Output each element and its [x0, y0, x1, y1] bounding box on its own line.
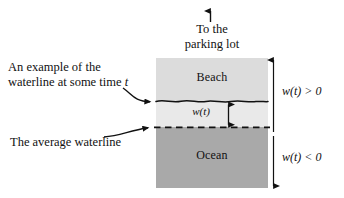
waterline-example-caption-line2: waterline at some time t [8, 75, 144, 90]
wt-negative-label: w(t) < 0 [282, 150, 321, 165]
parking-lot-caption-line2: parking lot [162, 37, 262, 52]
wt-positive-label: w(t) > 0 [282, 84, 321, 99]
diagram-canvas: To the parking lot An example of the wat… [0, 0, 344, 198]
waterline-example-caption: An example of the waterline at some time… [8, 60, 144, 90]
ocean-label: Ocean [156, 148, 268, 163]
parking-lot-caption-line1: To the [162, 22, 262, 37]
average-waterline-caption: The average waterline [10, 135, 150, 150]
waterline-example-leader-arrow [123, 88, 150, 102]
beach-label: Beach [156, 70, 268, 85]
waterline-example-caption-line2-text: waterline at some time t [8, 75, 128, 89]
wt-inner-label: w(t) [178, 105, 224, 117]
waterline-example-caption-line1: An example of the [8, 60, 144, 75]
parking-lot-caption: To the parking lot [162, 22, 262, 52]
